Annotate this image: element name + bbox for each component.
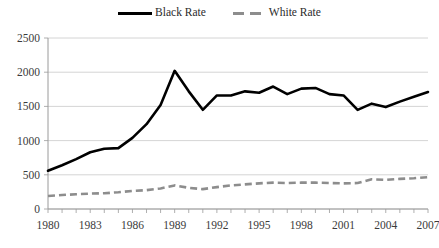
solid-line-swatch-icon [118,8,152,18]
x-axis-tick-label: 2004 [374,219,397,231]
y-axis-tick-label: 2000 [17,66,40,78]
x-axis-tick-label: 2001 [332,219,355,231]
x-axis-tick-label: 1989 [163,219,186,231]
dashed-line-swatch-icon [232,8,266,18]
gridlines-group [48,38,428,209]
legend-item-black-rate: Black Rate [118,7,206,19]
x-axis-tick-label: 2007 [417,219,439,231]
y-axis-tick-label: 0 [34,203,40,215]
y-axis-labels-group: 05001000150020002500 [17,32,40,215]
chart-legend: Black Rate White Rate [0,2,439,24]
y-axis-tick-label: 1000 [17,135,40,147]
y-axis-tick-label: 500 [23,169,41,181]
chart-container: Black Rate White Rate 050010001500200025… [0,0,439,248]
legend-label-black-rate: Black Rate [155,7,206,19]
x-axis-tick-label: 1980 [37,219,60,231]
legend-label-white-rate: White Rate [269,7,321,19]
x-axis-ticks-group [48,209,428,213]
x-axis-tick-label: 1992 [205,219,228,231]
series-line-white-rate [48,177,428,196]
y-axis-ticks-group [44,38,48,209]
x-axis-labels-group: 1980198319861989199219951998200120042007 [37,219,439,231]
legend-item-white-rate: White Rate [232,7,321,19]
plot-area-wrapper: 05001000150020002500 1980198319861989199… [0,24,439,248]
x-axis-tick-label: 1986 [121,219,144,231]
y-axis-tick-label: 2500 [17,32,40,44]
y-axis-tick-label: 1500 [17,100,40,112]
series-line-black-rate [48,71,428,171]
x-axis-tick-label: 1998 [290,219,313,231]
x-axis-tick-label: 1983 [79,219,102,231]
x-axis-tick-label: 1995 [248,219,271,231]
line-chart-svg: 05001000150020002500 1980198319861989199… [0,24,439,248]
